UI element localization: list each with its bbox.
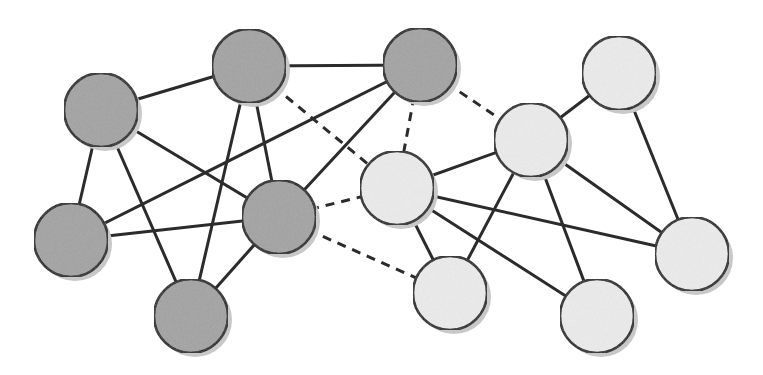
network-diagram — [0, 0, 763, 375]
node-circle — [242, 180, 316, 254]
node-J-light — [413, 256, 491, 334]
node-circle — [212, 29, 286, 103]
node-circle — [383, 28, 457, 102]
node-circle — [413, 256, 487, 330]
node-circle — [34, 203, 108, 277]
node-L-light — [655, 217, 733, 295]
node-K-light — [560, 279, 638, 357]
node-circle — [655, 217, 729, 291]
node-layer — [34, 28, 733, 357]
node-D-dark — [34, 203, 112, 281]
node-I-light — [582, 36, 660, 114]
node-circle — [154, 279, 228, 353]
node-circle — [360, 151, 434, 225]
node-A-dark — [64, 73, 142, 151]
node-G-light — [360, 151, 438, 229]
node-circle — [64, 73, 138, 147]
node-circle — [582, 36, 656, 110]
node-F-dark — [154, 279, 232, 357]
node-H-light — [494, 103, 572, 181]
node-circle — [494, 103, 568, 177]
node-B-dark — [212, 29, 290, 107]
node-circle — [560, 279, 634, 353]
